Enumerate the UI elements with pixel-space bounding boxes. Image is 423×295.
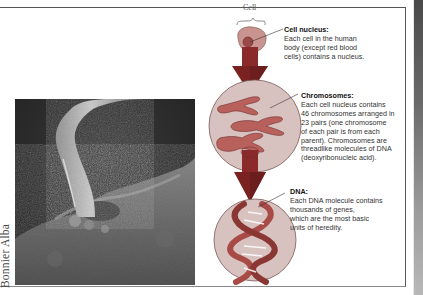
annotation-cell-nucleus: Cell nucleus: Each cell in the human bod… xyxy=(284,26,364,62)
annotation-dna: DNA: Each DNA molecule contains thousand… xyxy=(290,188,383,233)
annotation-line: (deoxyribonucleic acid). xyxy=(301,154,395,163)
annotation-line: cells) contains a nucleus. xyxy=(284,53,364,62)
annotation-line: units of heredity. xyxy=(290,224,383,233)
annotation-chromosomes: Chromosomes: Each cell nucleus contains … xyxy=(301,92,395,163)
cell-brace xyxy=(237,18,265,25)
